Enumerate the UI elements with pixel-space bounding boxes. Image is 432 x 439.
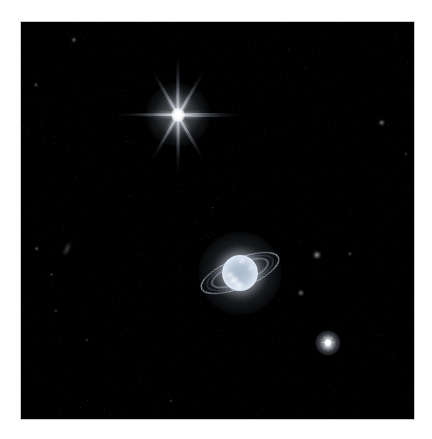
bright-star-lower-right	[327, 342, 328, 343]
sky-field	[21, 22, 414, 419]
faint-star-mid-left-glow	[34, 246, 40, 252]
faint-star-lower-left-2	[55, 310, 56, 311]
faint-star-bottom-mid	[170, 400, 171, 401]
faint-star-lower-left	[51, 274, 52, 275]
faint-star-mid-left	[36, 248, 37, 249]
east-limb-cloud	[248, 266, 254, 271]
bright-star-triton	[177, 114, 179, 116]
faint-star-right-mid	[349, 253, 350, 254]
faint-star-upper-right-glow	[378, 119, 386, 127]
faint-star-upper-left	[73, 39, 74, 40]
moon-despina	[300, 292, 301, 293]
triton-core	[171, 108, 185, 122]
moon-galatea	[316, 254, 317, 255]
southwest-cloud	[226, 272, 234, 278]
north-limb-cloud	[238, 258, 246, 264]
faint-star-center-glow	[211, 206, 215, 210]
starfield-canvas	[21, 22, 414, 419]
planet-neptune	[239, 272, 241, 274]
faint-star-bottom	[86, 339, 87, 340]
faint-star-lower-left-glow	[49, 272, 54, 277]
image-viewer	[0, 0, 432, 439]
faint-star-center	[212, 207, 213, 208]
faint-star-upper-right	[381, 122, 382, 123]
faint-star-left	[35, 84, 36, 85]
south-pole-glow	[234, 281, 244, 289]
faint-star-far-right	[405, 153, 406, 154]
